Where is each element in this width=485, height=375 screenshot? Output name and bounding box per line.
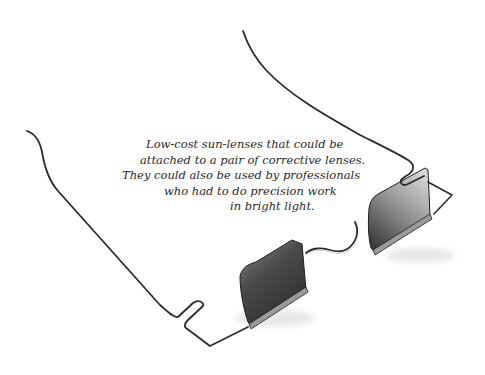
right-frame-wire <box>428 182 452 214</box>
caption-line: They could also be used by professionals <box>110 168 350 184</box>
bridge-wire <box>306 222 357 253</box>
caption-line: in bright light. <box>110 199 350 215</box>
product-caption: Low-cost sun-lenses that could be attach… <box>110 137 350 215</box>
caption-line: Low-cost sun-lenses that could be <box>110 137 350 153</box>
product-illustration: Low-cost sun-lenses that could be attach… <box>0 0 485 375</box>
right-lens-shadow <box>385 248 455 262</box>
caption-line: who had to do precision work <box>110 184 350 200</box>
caption-line: attached to a pair of corrective lenses. <box>110 153 350 169</box>
